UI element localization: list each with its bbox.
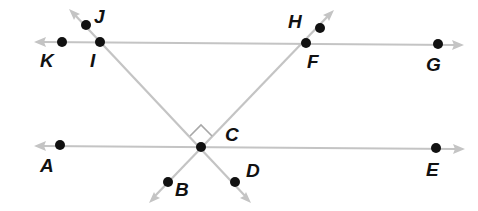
point-F <box>301 38 311 48</box>
point-B <box>163 177 173 187</box>
point-E <box>431 143 441 153</box>
point-label-C: C <box>225 124 239 145</box>
point-I <box>95 37 105 47</box>
point-label-D: D <box>246 160 260 181</box>
point-label-G: G <box>426 54 441 75</box>
point-label-A: A <box>39 155 54 176</box>
point-label-I: I <box>90 50 96 71</box>
labels-layer: KIJFHGACEBD <box>39 6 441 200</box>
point-label-K: K <box>40 50 55 71</box>
point-H <box>315 23 325 33</box>
point-K <box>57 37 67 47</box>
point-A <box>55 140 65 150</box>
point-G <box>433 39 443 49</box>
point-C <box>196 142 206 152</box>
point-label-F: F <box>307 51 320 72</box>
point-label-H: H <box>288 11 303 32</box>
point-label-B: B <box>175 179 189 200</box>
geometry-diagram: KIJFHGACEBD <box>0 0 478 211</box>
point-D <box>230 177 240 187</box>
point-label-J: J <box>94 6 105 27</box>
right-angle-mark <box>190 125 212 136</box>
point-label-E: E <box>426 159 440 180</box>
line-AE <box>42 146 456 149</box>
point-J <box>81 20 91 30</box>
